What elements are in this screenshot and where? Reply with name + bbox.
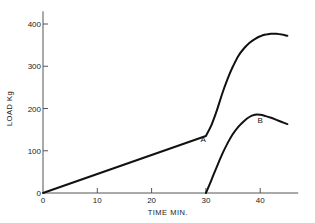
x-tick-label: 30	[201, 196, 210, 205]
y-tick-label: 400	[28, 20, 42, 29]
x-axis-title: TIME MIN.	[148, 208, 188, 217]
curve-label-a: A	[201, 135, 207, 144]
x-tick-label: 40	[256, 196, 265, 205]
curve-label-b: B	[258, 116, 263, 125]
x-tick-label: 20	[147, 196, 156, 205]
x-tick-label: 0	[41, 196, 46, 205]
y-tick-label: 100	[28, 147, 42, 156]
y-tick-label: 0	[37, 189, 42, 198]
axes	[43, 11, 298, 193]
series: AB	[43, 34, 287, 193]
y-axis-title: LOAD Kg	[5, 91, 14, 126]
y-tick-label: 200	[28, 105, 42, 114]
series-line-a	[43, 34, 287, 193]
x-tick-label: 10	[93, 196, 102, 205]
load-time-chart: 0102030400100200300400 AB TIME MIN. LOAD…	[0, 0, 315, 223]
series-line-b	[206, 115, 288, 193]
ticks: 0102030400100200300400	[28, 20, 266, 205]
y-tick-label: 300	[28, 62, 42, 71]
